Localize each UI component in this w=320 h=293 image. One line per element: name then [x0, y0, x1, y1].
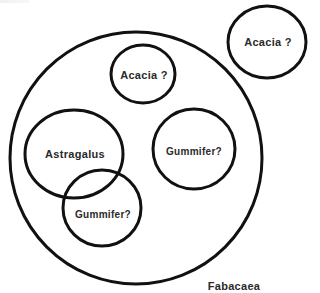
acacia-inside-label: Acacia ?: [120, 69, 168, 81]
astragalus-label: Astragalus: [45, 148, 105, 160]
acacia-outside-label: Acacia ?: [244, 36, 292, 48]
gummifer-right-label: Gummifer?: [166, 146, 222, 157]
gummifer-overlap-label: Gummifer?: [75, 209, 131, 220]
fabacaea-label: Fabacaea: [208, 280, 261, 292]
